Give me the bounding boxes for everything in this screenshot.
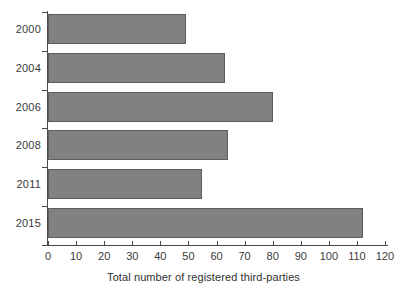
x-tick xyxy=(104,241,105,246)
x-axis-title: Total number of registered third-parties xyxy=(0,271,407,284)
x-tick xyxy=(132,241,133,246)
x-tick-label-0: 0 xyxy=(33,250,63,262)
y-tick-label-2006: 2006 xyxy=(1,102,41,113)
x-tick-label-70: 70 xyxy=(230,250,260,262)
x-tick xyxy=(48,241,49,246)
bar-2004 xyxy=(48,53,225,83)
x-tick-label-90: 90 xyxy=(286,250,316,262)
x-tick xyxy=(329,241,330,246)
x-tick-label-60: 60 xyxy=(202,250,232,262)
y-tick-label-2011: 2011 xyxy=(1,179,41,190)
x-tick-label-20: 20 xyxy=(89,250,119,262)
x-tick xyxy=(245,241,246,246)
x-tick-label-80: 80 xyxy=(258,250,288,262)
x-tick-label-30: 30 xyxy=(117,250,147,262)
x-tick xyxy=(217,241,218,246)
y-tick-label-2015: 2015 xyxy=(1,218,41,229)
x-tick-label-110: 110 xyxy=(342,250,372,262)
y-tick-label-2004: 2004 xyxy=(1,63,41,74)
bar-2015 xyxy=(48,208,363,238)
bar-2011 xyxy=(48,169,202,199)
x-tick-label-10: 10 xyxy=(61,250,91,262)
y-tick-label-2000: 2000 xyxy=(1,24,41,35)
x-tick xyxy=(385,241,386,246)
x-tick-label-50: 50 xyxy=(173,250,203,262)
x-tick-label-120: 120 xyxy=(370,250,400,262)
bar-2006 xyxy=(48,92,273,122)
x-tick xyxy=(273,241,274,246)
x-tick xyxy=(357,241,358,246)
x-tick-label-100: 100 xyxy=(314,250,344,262)
x-tick xyxy=(160,241,161,246)
x-tick xyxy=(188,241,189,246)
bars-group xyxy=(48,12,385,245)
y-tick-label-2008: 2008 xyxy=(1,140,41,151)
x-tick xyxy=(76,241,77,246)
x-tick-label-40: 40 xyxy=(145,250,175,262)
bar-chart: 200020042006200820112015 010203040506070… xyxy=(0,0,407,297)
y-axis-labels: 200020042006200820112015 xyxy=(0,0,41,245)
bar-2000 xyxy=(48,14,186,44)
bar-2008 xyxy=(48,130,228,160)
x-tick xyxy=(301,241,302,246)
